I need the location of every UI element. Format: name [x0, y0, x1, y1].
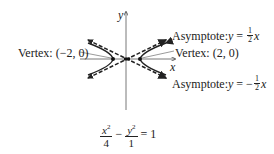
- center-mark: [124, 58, 130, 61]
- y-axis-label: y: [118, 9, 123, 21]
- x-axis-label: x: [170, 61, 175, 73]
- slope-fraction: 12: [247, 27, 253, 44]
- hyperbola-equation: x24 − y21 = 1: [100, 121, 156, 149]
- vertex-right-point: [138, 57, 142, 61]
- slope-fraction: 12: [254, 75, 260, 92]
- asymptote-positive-label: Asymptote: y = 12 x: [172, 27, 259, 44]
- vertex-right-label: Vertex: (2, 0): [175, 47, 239, 59]
- vertex-left-point: [111, 57, 115, 61]
- asymptote-negative-label: Asymptote: y = − 12 x: [172, 75, 266, 92]
- vertex-left-label: Vertex: (−2, 0): [18, 47, 88, 59]
